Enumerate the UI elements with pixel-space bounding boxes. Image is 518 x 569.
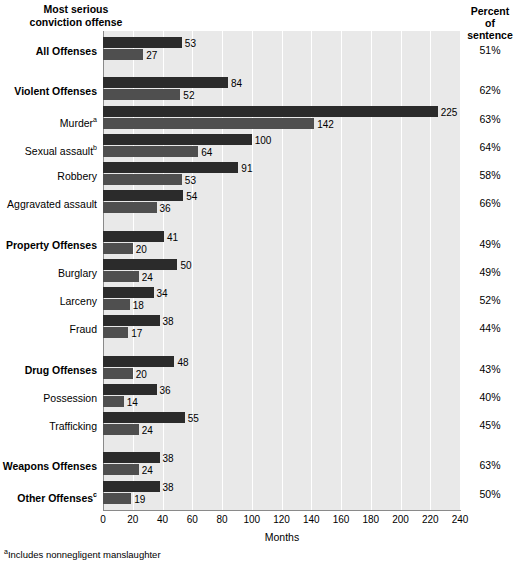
row-label-violent-offenses: Violent Offenses xyxy=(0,85,97,97)
gridline-220 xyxy=(430,31,431,510)
bar-sentence-length xyxy=(103,190,183,201)
percent-of-sentence-value: 50% xyxy=(462,488,518,500)
bar-value-time-served: 24 xyxy=(142,465,153,476)
bar-sentence-length xyxy=(103,37,182,48)
row-label-all-offenses: All Offenses xyxy=(0,45,97,57)
bar-value-sentence-length: 36 xyxy=(160,385,171,396)
bar-time-served xyxy=(103,368,133,379)
footnote: aIncludes nonnegligent manslaughter xyxy=(4,548,161,560)
row-label-larceny: Larceny xyxy=(0,295,97,307)
row-label-sexual-assault: Sexual assaultb xyxy=(0,142,97,157)
bar-value-sentence-length: 54 xyxy=(186,191,197,202)
bar-time-served xyxy=(103,299,130,310)
chart-right-header: Percent of sentence xyxy=(462,5,518,41)
bar-value-sentence-length: 53 xyxy=(185,38,196,49)
bar-time-served xyxy=(103,89,180,100)
row-label-robbery: Robbery xyxy=(0,170,97,182)
percent-of-sentence-value: 45% xyxy=(462,419,518,431)
row-label-trafficking: Trafficking xyxy=(0,420,97,432)
bar-sentence-length xyxy=(103,356,174,367)
chart-left-header: Most serious conviction offense xyxy=(0,3,152,29)
bar-time-served xyxy=(103,424,139,435)
bar-value-time-served: 20 xyxy=(136,369,147,380)
bar-time-served xyxy=(103,202,157,213)
x-tick-220: 220 xyxy=(415,514,445,525)
gridline-120 xyxy=(282,31,283,510)
row-label-drug-offenses: Drug Offenses xyxy=(0,364,97,376)
bar-time-served xyxy=(103,49,143,60)
x-tick-60: 60 xyxy=(177,514,207,525)
bar-time-served xyxy=(103,243,133,254)
bar-value-time-served: 142 xyxy=(317,119,334,130)
bar-sentence-length xyxy=(103,259,177,270)
bar-time-served xyxy=(103,396,124,407)
bar-value-sentence-length: 38 xyxy=(163,453,174,464)
bar-sentence-length xyxy=(103,481,160,492)
bar-value-sentence-length: 50 xyxy=(180,260,191,271)
percent-of-sentence-value: 63% xyxy=(462,459,518,471)
x-tick-240: 240 xyxy=(445,514,475,525)
gridline-40 xyxy=(163,31,164,510)
x-tick-80: 80 xyxy=(207,514,237,525)
plot-area xyxy=(103,31,460,510)
bar-time-served xyxy=(103,493,131,504)
footnote-text: Includes nonnegligent manslaughter xyxy=(8,549,161,560)
bar-value-time-served: 20 xyxy=(136,244,147,255)
bar-value-sentence-length: 55 xyxy=(188,413,199,424)
bar-sentence-length xyxy=(103,412,185,423)
x-tick-40: 40 xyxy=(148,514,178,525)
bar-time-served xyxy=(103,146,198,157)
bar-value-time-served: 14 xyxy=(127,397,138,408)
bar-value-time-served: 18 xyxy=(133,300,144,311)
gridline-180 xyxy=(371,31,372,510)
bar-value-sentence-length: 100 xyxy=(255,135,272,146)
percent-of-sentence-value: 64% xyxy=(462,141,518,153)
x-tick-100: 100 xyxy=(237,514,267,525)
x-tick-0: 0 xyxy=(88,514,118,525)
x-tick-140: 140 xyxy=(296,514,326,525)
row-label-possession: Possession xyxy=(0,392,97,404)
bar-value-time-served: 24 xyxy=(142,425,153,436)
bar-time-served xyxy=(103,271,139,282)
x-tick-20: 20 xyxy=(118,514,148,525)
bar-value-time-served: 27 xyxy=(146,50,157,61)
left-header-line2: conviction offense xyxy=(0,16,152,29)
x-tick-180: 180 xyxy=(356,514,386,525)
x-tick-200: 200 xyxy=(386,514,416,525)
right-header-line1: Percent xyxy=(462,5,518,17)
bar-sentence-length xyxy=(103,315,160,326)
x-axis-ticks: 020406080100120140160180200220240 xyxy=(0,510,518,530)
row-label-other-offenses: Other Offensesc xyxy=(0,489,97,504)
footnote-ref-b: b xyxy=(93,144,97,151)
gridline-160 xyxy=(341,31,342,510)
footnote-ref-c: c xyxy=(93,491,97,498)
percent-of-sentence-value: 44% xyxy=(462,322,518,334)
bar-sentence-length xyxy=(103,452,160,463)
bar-value-time-served: 53 xyxy=(185,175,196,186)
bar-value-sentence-length: 41 xyxy=(167,232,178,243)
bar-value-time-served: 17 xyxy=(131,328,142,339)
bar-sentence-length xyxy=(103,77,228,88)
bar-value-time-served: 64 xyxy=(201,147,212,158)
percent-of-sentence-value: 40% xyxy=(462,391,518,403)
bar-value-sentence-length: 84 xyxy=(231,78,242,89)
gridline-80 xyxy=(222,31,223,510)
bar-time-served xyxy=(103,174,182,185)
percent-of-sentence-value: 63% xyxy=(462,113,518,125)
bar-time-served xyxy=(103,118,314,129)
bar-value-time-served: 24 xyxy=(142,272,153,283)
gridline-140 xyxy=(311,31,312,510)
percent-of-sentence-value: 51% xyxy=(462,44,518,56)
percent-of-sentence-value: 43% xyxy=(462,363,518,375)
x-axis-label: Months xyxy=(103,531,461,543)
percent-of-sentence-value: 62% xyxy=(462,84,518,96)
row-label-fraud: Fraud xyxy=(0,323,97,335)
gridline-240 xyxy=(460,31,461,510)
bar-sentence-length xyxy=(103,384,157,395)
bar-value-time-served: 19 xyxy=(134,494,145,505)
bar-sentence-length xyxy=(103,134,252,145)
row-label-murder: Murdera xyxy=(0,114,97,129)
bar-time-served xyxy=(103,464,139,475)
gridline-60 xyxy=(192,31,193,510)
gridline-200 xyxy=(401,31,402,510)
